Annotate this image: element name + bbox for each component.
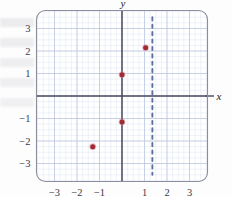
x-tick-label: 3: [187, 187, 192, 197]
y-tick-label: −1: [19, 113, 30, 124]
coordinate-plane-plot: −3−2−1123321−1−2−3xy: [0, 0, 232, 196]
chart-canvas: −3−2−1123321−1−2−3xy: [0, 0, 232, 196]
y-tick-label: 2: [25, 46, 30, 57]
x-tick-label: −1: [94, 187, 105, 197]
x-tick-label: −2: [71, 187, 82, 197]
x-tick-label: 2: [164, 187, 169, 197]
y-axis-label: y: [120, 0, 126, 9]
x-axis-label: x: [216, 90, 222, 102]
x-tick-label: −3: [49, 187, 60, 197]
x-tick-label: 1: [142, 187, 147, 197]
y-tick-label: −2: [19, 136, 30, 147]
y-tick-label: 1: [25, 68, 30, 79]
y-tick-label: −3: [19, 158, 30, 169]
y-tick-label: 3: [25, 23, 30, 34]
